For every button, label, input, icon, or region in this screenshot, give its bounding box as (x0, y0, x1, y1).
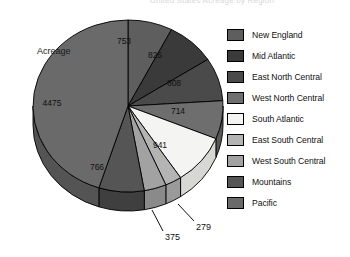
legend-swatch-icon (227, 155, 244, 167)
legend-swatch-icon (227, 134, 244, 146)
chart-title-clipped: United States Acreage by Region (150, 0, 330, 5)
legend-item[interactable]: Pacific (227, 192, 349, 213)
legend-item[interactable]: New England (227, 24, 349, 45)
pie-value-label: 808 (167, 78, 181, 88)
legend-item[interactable]: West South Central (227, 150, 349, 171)
legend-swatch-icon (227, 113, 244, 125)
legend-item-label: Pacific (252, 198, 277, 208)
chart-legend: New EnglandMid AtlanticEast North Centra… (227, 24, 349, 213)
legend-item[interactable]: East South Central (227, 129, 349, 150)
legend-item[interactable]: West North Central (227, 87, 349, 108)
callout-label-279: 279 (196, 222, 211, 232)
legend-item-label: Mountains (252, 177, 291, 187)
legend-swatch-icon (227, 29, 244, 41)
legend-item[interactable]: South Atlantic (227, 108, 349, 129)
acreage-annotation: Acreage (37, 46, 71, 56)
legend-item-label: West North Central (252, 93, 324, 103)
legend-item[interactable]: Mountains (227, 171, 349, 192)
legend-item-label: East South Central (252, 135, 323, 145)
legend-item-label: Mid Atlantic (252, 51, 295, 61)
pie-value-label: 941 (153, 140, 167, 150)
legend-item[interactable]: Mid Atlantic (227, 45, 349, 66)
legend-item-label: East North Central (252, 72, 322, 82)
legend-item-label: New England (252, 30, 303, 40)
legend-swatch-icon (227, 176, 244, 188)
legend-item-label: West South Central (252, 156, 325, 166)
pie-value-label: 825 (148, 50, 162, 60)
legend-swatch-icon (227, 71, 244, 83)
callout-label-375: 375 (165, 232, 180, 242)
legend-swatch-icon (227, 92, 244, 104)
pie-value-label: 766 (90, 162, 104, 172)
pie-value-label: 4475 (43, 98, 62, 108)
legend-item[interactable]: East North Central (227, 66, 349, 87)
pie-value-label: 753 (117, 36, 131, 46)
legend-swatch-icon (227, 197, 244, 209)
chart-canvas: United States Acreage by Region 75382580… (0, 0, 350, 257)
legend-item-label: South Atlantic (252, 114, 304, 124)
pie-value-label: 714 (171, 106, 185, 116)
legend-swatch-icon (227, 50, 244, 62)
pie-chart: 7538258087149417664475 Acreage (18, 14, 230, 226)
